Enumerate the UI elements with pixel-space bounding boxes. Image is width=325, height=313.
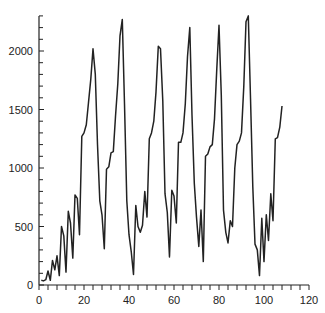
y-tick-label: 500 [15,221,33,233]
x-tick-label: 60 [168,294,180,306]
x-tick-label: 100 [255,294,273,306]
x-tick-label: 80 [213,294,225,306]
data-line [41,16,282,281]
x-tick-label: 40 [123,294,135,306]
y-tick-label: 1500 [9,104,33,116]
y-tick-label: 2000 [9,45,33,57]
line-chart: 0500100015002000020406080100120 [0,0,325,313]
x-tick-label: 120 [300,294,318,306]
y-tick-label: 1000 [9,162,33,174]
x-tick-label: 20 [78,294,90,306]
y-tick-label: 0 [27,279,33,291]
x-tick-label: 0 [36,294,42,306]
axes: 0500100015002000020406080100120 [9,16,319,306]
